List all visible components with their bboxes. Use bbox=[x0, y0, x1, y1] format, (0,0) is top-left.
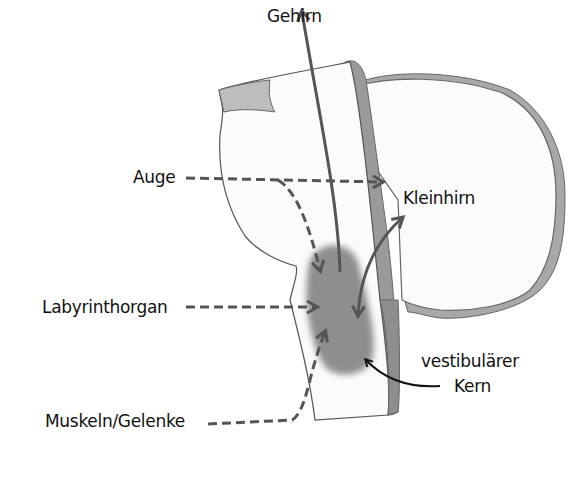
label-muscles-joints: Muskeln/Gelenke bbox=[45, 413, 185, 430]
label-vestibular-nucleus-line1: vestibulärer bbox=[421, 353, 519, 370]
label-cerebellum: Kleinhirn bbox=[403, 190, 475, 207]
label-eye: Auge bbox=[133, 169, 175, 186]
label-vestibular-nucleus-line2: Kern bbox=[454, 378, 491, 395]
label-labyrinth: Labyrinthorgan bbox=[42, 299, 168, 316]
label-brain: Gehirn bbox=[267, 8, 322, 25]
